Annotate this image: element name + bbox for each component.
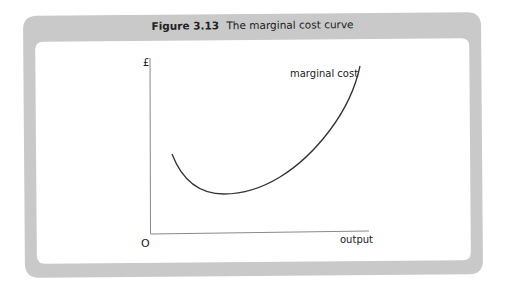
marginal-cost-curve [172,66,360,194]
figure-number: Figure 3.13 [151,19,219,32]
origin-label: O [141,237,150,250]
figure-frame [0,0,505,291]
frame-border [23,12,483,278]
y-axis [150,58,151,234]
curve-label: marginal cost [290,68,358,79]
x-axis-label: output [340,234,373,245]
y-axis-label: £ [143,57,149,68]
x-axis [151,231,370,234]
figure-caption: The marginal cost curve [226,18,353,31]
